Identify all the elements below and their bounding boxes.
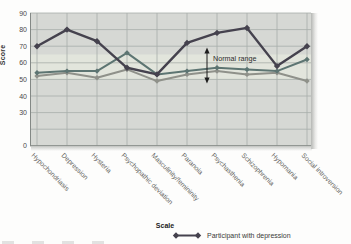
legend: Participant with depression [172,231,291,240]
y-tick-label: 80 [19,26,27,33]
legend-line-sample [172,231,202,240]
y-axis-title: Score [0,38,9,72]
page-edge-shadow-right [311,13,318,149]
mmpi-profile-figure: 908070605040300Normal rangeHypochondrias… [0,0,351,244]
legend-marker-left [173,232,179,239]
y-tick-label: 90 [19,10,27,17]
x-tick-label: Depression [60,152,90,182]
legend-label: Participant with depression [207,232,291,239]
y-tick-label: 50 [19,76,27,83]
y-tick-label: 70 [19,43,27,50]
y-tick-label: 40 [19,93,27,100]
y-tick-label: 60 [19,59,27,66]
x-tick-label: Paranoia [180,152,204,176]
x-tick-label: Hypomania [270,152,300,182]
page-edge-shadow-bottom [31,146,312,151]
x-tick-label: Social introversion [300,152,344,196]
x-tick-label: Hysteria [90,152,113,175]
y-tick-label: 30 [19,109,27,116]
y-tick-label: 0 [23,142,27,149]
normal-range-label: Normal range [213,54,257,63]
legend-marker-right [195,232,201,239]
x-axis-title: Scale [143,222,187,229]
mmpi-line-chart: 908070605040300Normal rangeHypochondrias… [0,0,351,244]
x-tick-label: Psychopathic deviation [120,152,175,207]
normal-range-band [30,55,311,80]
